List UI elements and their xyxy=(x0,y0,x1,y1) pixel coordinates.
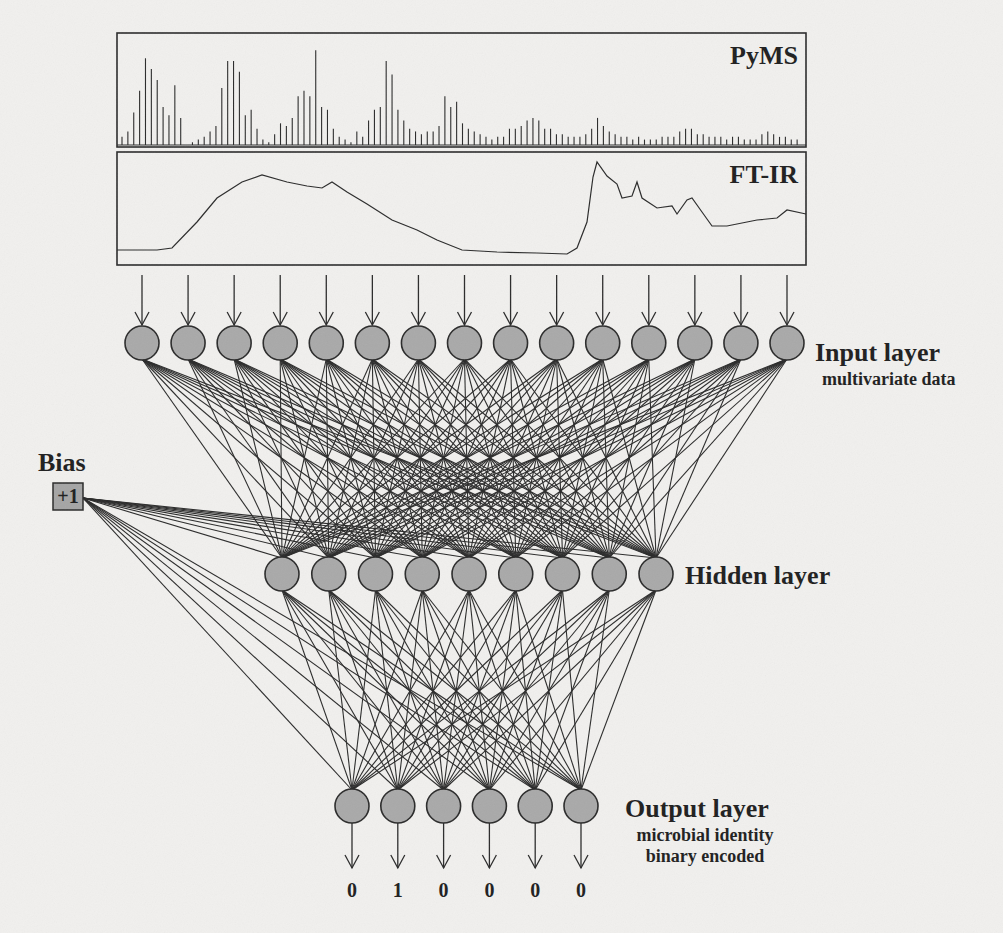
paper-grain-overlay xyxy=(0,0,1003,933)
neural-network-diagram: PyMS FT-IR Bias +1 Input layer multivari… xyxy=(0,0,1003,933)
